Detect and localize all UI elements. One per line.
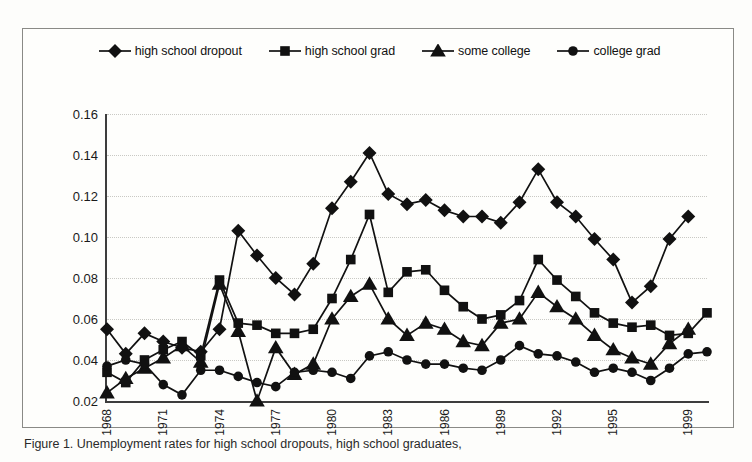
data-point-marker: [702, 308, 712, 318]
data-point-marker: [252, 378, 262, 388]
data-point-marker: [683, 349, 693, 359]
data-point-marker: [665, 363, 675, 373]
data-point-marker: [346, 374, 356, 384]
x-axis-tick-label: 1977: [270, 409, 282, 436]
data-point-marker: [515, 341, 525, 351]
data-point-marker: [346, 255, 356, 265]
x-axis-tick-label: 1968: [101, 409, 113, 436]
y-axis-tick-label: 0.14: [73, 149, 98, 162]
data-point-marker: [249, 393, 265, 406]
x-axis-tick-label: 1999: [682, 409, 694, 436]
data-point-marker: [458, 363, 468, 373]
data-point-marker: [590, 308, 600, 318]
data-point-marker: [419, 193, 433, 207]
data-point-marker: [100, 322, 114, 336]
data-point-marker: [456, 209, 470, 223]
data-point-marker: [118, 371, 134, 384]
y-axis-tick-label: 0.10: [73, 231, 98, 244]
series-line: [107, 153, 688, 354]
x-axis-tick-label: 1986: [439, 409, 451, 436]
data-point-marker: [362, 146, 376, 160]
y-axis-tick-label: 0.04: [73, 354, 98, 367]
data-point-marker: [627, 368, 637, 378]
triangle-icon: [421, 44, 455, 58]
data-point-marker: [327, 294, 337, 304]
chart-legend: high school dropouthigh school gradsome …: [23, 37, 735, 65]
x-axis-tick-label: 1974: [214, 409, 226, 436]
data-point-marker: [662, 336, 678, 349]
data-point-marker: [325, 201, 339, 215]
data-point-marker: [590, 368, 600, 378]
data-point-marker: [515, 296, 525, 306]
data-point-marker: [702, 347, 712, 357]
legend-item-diamond[interactable]: high school dropout: [98, 44, 242, 58]
data-point-marker: [308, 324, 318, 334]
data-point-marker: [605, 342, 621, 355]
data-point-marker: [271, 382, 281, 392]
data-point-marker: [365, 210, 375, 220]
data-point-marker: [362, 276, 378, 289]
data-point-marker: [421, 265, 431, 275]
data-point-marker: [327, 368, 337, 378]
data-point-marker: [496, 355, 506, 365]
legend-item-square[interactable]: high school grad: [268, 44, 395, 58]
x-axis-tick-label: 1980: [326, 409, 338, 436]
data-point-marker: [231, 224, 245, 238]
data-point-marker: [458, 302, 468, 312]
data-point-marker: [215, 365, 225, 375]
series-line: [107, 284, 688, 401]
data-point-marker: [477, 365, 487, 375]
data-point-marker: [140, 359, 150, 369]
data-point-marker: [571, 357, 581, 367]
data-point-marker: [383, 288, 393, 298]
y-axis-tick-label: 0.08: [73, 272, 98, 285]
data-point-marker: [233, 372, 243, 382]
data-point-marker: [512, 311, 528, 324]
data-point-marker: [531, 162, 545, 176]
x-axis-tick-label: 1971: [157, 409, 169, 436]
data-point-marker: [552, 275, 562, 285]
data-point-marker: [533, 255, 543, 265]
data-point-marker: [552, 351, 562, 361]
plot-frame: 0.020.040.060.080.100.120.140.16 1968197…: [107, 114, 707, 401]
data-point-marker: [121, 355, 131, 365]
data-point-marker: [177, 390, 187, 400]
legend-item-label: high school grad: [305, 45, 395, 58]
data-point-marker: [440, 285, 450, 295]
data-point-marker: [571, 292, 581, 302]
data-point-marker: [99, 385, 115, 398]
y-axis-tick-label: 0.16: [73, 108, 98, 121]
data-point-marker: [569, 46, 579, 56]
square-icon: [268, 44, 302, 58]
data-point-marker: [437, 203, 451, 217]
data-point-marker: [271, 329, 281, 339]
data-point-marker: [624, 350, 640, 363]
y-axis-tick-label: 0.02: [73, 395, 98, 408]
data-point-marker: [440, 359, 450, 369]
legend-item-triangle[interactable]: some college: [421, 44, 530, 58]
data-point-marker: [102, 361, 112, 371]
data-point-marker: [252, 320, 262, 330]
legend-item-label: high school dropout: [135, 45, 242, 58]
data-point-marker: [344, 175, 358, 189]
x-axis-tick-label: 1989: [495, 409, 507, 436]
data-point-marker: [158, 380, 168, 390]
data-point-marker: [646, 376, 656, 386]
data-point-marker: [477, 314, 487, 324]
data-point-marker: [381, 187, 395, 201]
data-point-marker: [533, 349, 543, 359]
data-point-marker: [230, 324, 246, 337]
data-point-marker: [383, 347, 393, 357]
figure-frame: high school dropouthigh school gradsome …: [22, 28, 734, 428]
legend-item-circle[interactable]: college grad: [556, 44, 660, 58]
data-point-marker: [608, 363, 618, 373]
figure-caption: Figure 1. Unemployment rates for high sc…: [24, 437, 724, 451]
data-point-marker: [380, 311, 396, 324]
data-point-marker: [421, 359, 431, 369]
data-point-marker: [343, 289, 359, 302]
data-point-marker: [212, 276, 228, 289]
x-axis-tick-label: 1992: [551, 409, 563, 436]
legend-item-label: college grad: [593, 45, 660, 58]
data-point-marker: [268, 340, 284, 353]
data-point-marker: [280, 46, 290, 56]
